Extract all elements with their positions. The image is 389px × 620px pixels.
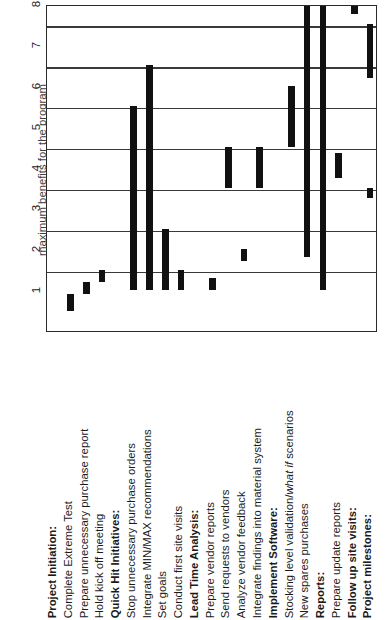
task-label: Follow up site visits: xyxy=(346,507,357,620)
gantt-bar xyxy=(288,86,295,147)
task-label-group: Project Initiation:Complete Extreme Test… xyxy=(0,332,389,620)
gantt-bar xyxy=(367,188,374,198)
gridline xyxy=(47,149,376,150)
task-label: Stop unnecessary purchase orders xyxy=(126,443,137,620)
gantt-bar xyxy=(256,147,263,188)
gantt-bar xyxy=(367,24,374,65)
task-label: Prepare vendor reports xyxy=(204,502,215,620)
gantt-bar xyxy=(304,6,311,257)
gridline xyxy=(47,26,376,27)
task-label: Send requests to vendors xyxy=(220,489,231,620)
task-label: Prepare unnecessary purchase report xyxy=(78,428,89,620)
month-tick-7: 7 xyxy=(30,25,42,65)
task-label: Integrate MIN/MAX recommendations xyxy=(141,429,152,620)
gridline xyxy=(47,231,376,232)
month-tick-1: 1 xyxy=(30,270,42,310)
gantt-bar xyxy=(146,65,153,290)
task-label: Project Initiation: xyxy=(47,526,58,620)
month-tick-6: 6 xyxy=(30,66,42,106)
gantt-chart-page: maximum benefits for the program Project… xyxy=(0,0,389,620)
task-label: Set goals xyxy=(157,571,168,620)
gantt-bar xyxy=(83,282,90,294)
month-tick-5: 5 xyxy=(30,107,42,147)
month-tick-8: 8 xyxy=(30,0,42,24)
task-label: Prepare update reports xyxy=(330,502,341,620)
gridline xyxy=(47,272,376,273)
gantt-bar xyxy=(178,270,185,290)
gantt-bar xyxy=(67,294,74,310)
task-label: Integrate findings into material system xyxy=(252,428,263,620)
task-label: Conduct first site visits xyxy=(173,506,184,620)
task-label: Analyze vendor feedback xyxy=(236,491,247,620)
month-tick-2: 2 xyxy=(30,229,42,269)
task-label: Hold kick off meeting xyxy=(94,513,105,620)
gantt-bar xyxy=(99,270,106,282)
month-tick-4: 4 xyxy=(30,148,42,188)
task-label: New spares purchases xyxy=(299,503,310,620)
gantt-bar xyxy=(367,65,374,77)
gantt-bar xyxy=(351,6,358,14)
task-label: Stocking level validation/what if scenar… xyxy=(283,410,294,620)
gridline xyxy=(47,190,376,191)
gantt-bar xyxy=(225,147,232,188)
gantt-bar xyxy=(130,106,137,290)
gantt-bar xyxy=(162,229,169,290)
task-label: Project milestones: xyxy=(362,514,373,620)
task-label: Lead Time Analysis: xyxy=(189,509,200,620)
gridline xyxy=(47,108,376,109)
gantt-bar xyxy=(320,6,327,290)
task-label: Quick Hit Initiatives: xyxy=(110,509,121,620)
gantt-bar xyxy=(335,153,342,178)
plot-area xyxy=(46,5,377,332)
month-tick-3: 3 xyxy=(30,188,42,228)
task-label: Complete Extreme Test xyxy=(63,501,74,620)
gantt-bar xyxy=(241,249,248,261)
gridline xyxy=(47,67,376,68)
task-label: Implement Software: xyxy=(267,507,278,620)
gantt-bar xyxy=(209,278,216,290)
task-label: Reports: xyxy=(315,572,326,620)
